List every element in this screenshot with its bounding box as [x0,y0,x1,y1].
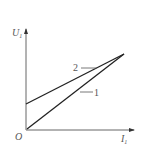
x-axis-label: I1 [120,133,127,145]
origin-label: O [15,131,22,142]
u-i-diagram: 2 1 U1 I1 O [0,0,147,151]
y-axis-label: U1 [12,27,22,39]
line-1-label: 1 [94,87,99,98]
line-2-label: 2 [73,62,78,73]
